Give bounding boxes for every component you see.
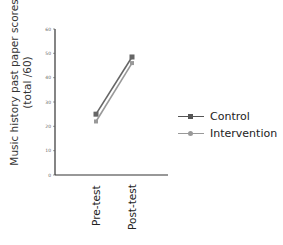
y-axis-label-line-1: Music history past paper scores [8, 0, 21, 205]
legend-item-control: Control [178, 108, 277, 125]
legend-label-control: Control [210, 110, 250, 123]
y-axis-label: Music history past paper scores (total /… [8, 0, 58, 205]
data-point-square-icon [94, 112, 99, 117]
y-axis-label-line-2: (total /60) [21, 0, 34, 205]
line-chart: 0102030405060 Music history past paper s… [0, 0, 283, 245]
x-tick-post-test: Post-test [126, 184, 138, 230]
data-point-square-icon [130, 54, 135, 59]
series-line-control [96, 57, 132, 114]
series-line-intervention [96, 63, 132, 121]
x-tick-pre-test: Pre-test [90, 185, 102, 226]
legend-label-intervention: Intervention [210, 127, 277, 140]
legend-swatch-control-icon [178, 112, 204, 122]
legend-swatch-intervention-icon [178, 129, 204, 139]
legend: Control Intervention [178, 108, 277, 142]
legend-item-intervention: Intervention [178, 125, 277, 142]
data-point-marker-icon [130, 61, 134, 65]
data-point-marker-icon [94, 119, 98, 123]
